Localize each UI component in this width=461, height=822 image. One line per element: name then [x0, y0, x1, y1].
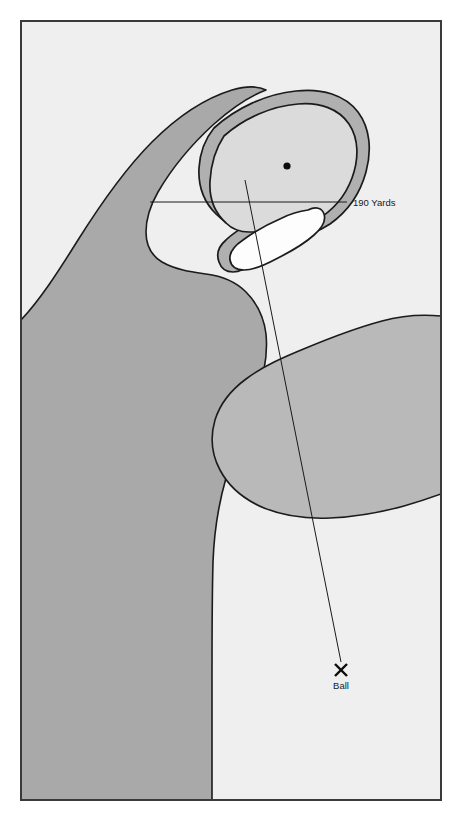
- pin-position-dot: [283, 162, 290, 169]
- hole-map-svg: 190 Yards Ball: [0, 0, 461, 822]
- ball-label: Ball: [333, 680, 349, 691]
- golf-hole-diagram: 190 Yards Ball: [0, 0, 461, 822]
- yardage-label: 190 Yards: [353, 197, 396, 208]
